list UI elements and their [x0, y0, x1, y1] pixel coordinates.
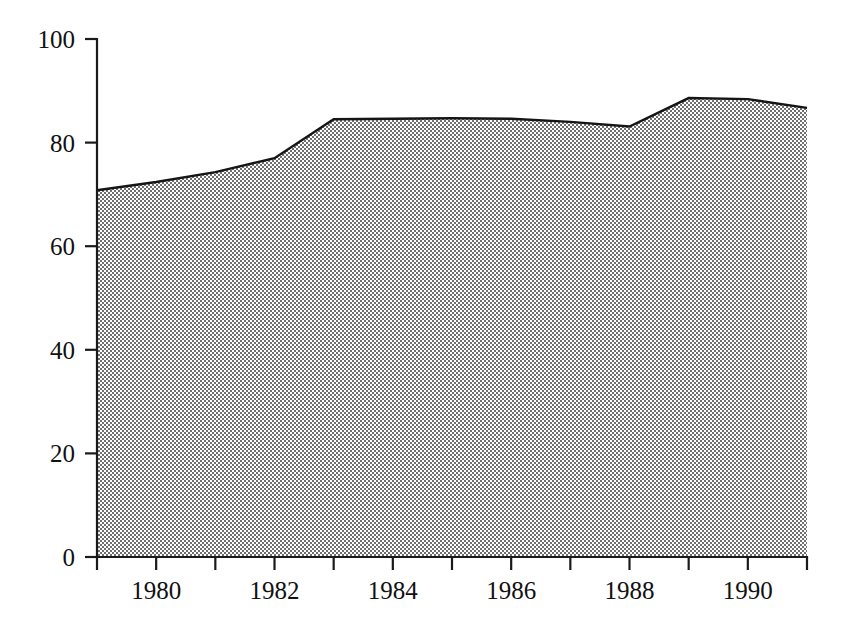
area-fill	[97, 98, 807, 557]
y-tick-label: 80	[50, 130, 75, 157]
x-tick-group: 198019821984198619881990	[97, 557, 807, 604]
x-tick-label: 1984	[368, 577, 419, 604]
y-tick-label: 0	[63, 544, 76, 571]
x-tick-label: 1982	[250, 577, 300, 604]
x-tick-label: 1988	[605, 577, 655, 604]
y-tick-label: 60	[50, 233, 75, 260]
y-tick-label: 40	[50, 337, 75, 364]
x-tick-label: 1990	[723, 577, 773, 604]
chart-page: 020406080100 198019821984198619881990	[0, 0, 847, 625]
x-tick-label: 1980	[131, 577, 181, 604]
x-tick-label: 1986	[486, 577, 536, 604]
y-axis: 020406080100	[38, 26, 98, 571]
x-axis: 198019821984198619881990	[97, 557, 807, 604]
area-chart: 020406080100 198019821984198619881990	[0, 0, 847, 625]
y-tick-label: 20	[50, 440, 75, 467]
y-tick-group: 020406080100	[38, 26, 98, 571]
y-tick-label: 100	[38, 26, 76, 53]
plot-area	[97, 98, 807, 557]
